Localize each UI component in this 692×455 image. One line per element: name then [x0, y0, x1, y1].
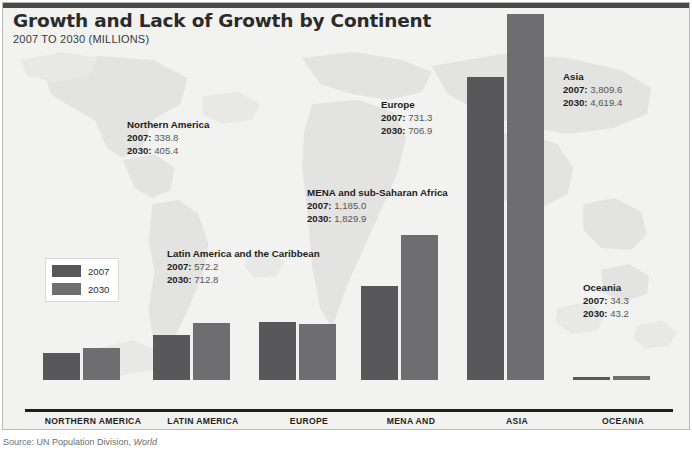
- legend: 2007 2030: [45, 258, 119, 302]
- bar-mena-subsaharan-africa-2007: [361, 286, 398, 380]
- axis-label-line2: SUB-SAHARAN AFRICA: [341, 427, 481, 430]
- bar-northern-america-2030: [83, 348, 120, 380]
- annotation-value: 706.9: [408, 125, 432, 136]
- bar-oceania-2007: [573, 377, 610, 380]
- bar-asia-2030: [507, 14, 544, 380]
- legend-swatch-icon-2007: [52, 265, 81, 277]
- annotation-value: 712.8: [194, 274, 218, 285]
- annotation-row-2007: 2007: 1,185.0: [307, 200, 448, 213]
- annotation-year-label: 2030:: [381, 125, 406, 136]
- annotation-latin-america: Latin America and the Caribbean 2007: 57…: [167, 248, 320, 286]
- annotation-title: Asia: [563, 71, 622, 84]
- annotation-value: 1,185.0: [334, 200, 366, 211]
- legend-swatch-icon-2030: [52, 283, 81, 295]
- bar-latin-america-2007: [153, 335, 190, 380]
- annotation-value: 3,809.6: [590, 84, 622, 95]
- legend-item-2007: 2007: [52, 264, 109, 278]
- annotation-value: 4,619.4: [590, 97, 622, 108]
- annotation-year-label: 2030:: [307, 213, 332, 224]
- bar-latin-america-2030: [193, 323, 230, 380]
- chart-figure: Growth and Lack of Growth by Continent 2…: [0, 0, 692, 455]
- bar-northern-america-2007: [43, 353, 80, 380]
- annotation-row-2030: 2030: 1,829.9: [307, 213, 448, 226]
- annotation-row-2007: 2007: 3,809.6: [563, 84, 622, 97]
- legend-label-2030: 2030: [88, 284, 109, 295]
- source-publication: World: [134, 437, 158, 447]
- bar-oceania-2030: [613, 376, 650, 380]
- axis-label-oceania: OCEANIA: [553, 416, 690, 427]
- annotation-year-label: 2030:: [583, 308, 608, 319]
- annotation-value: 1,829.9: [334, 213, 366, 224]
- annotation-title: Europe: [381, 99, 432, 112]
- annotation-title: Latin America and the Caribbean: [167, 248, 320, 261]
- annotation-row-2007: 2007: 34.3: [583, 295, 629, 308]
- annotation-title: Northern America: [127, 119, 209, 132]
- annotation-value: 731.3: [408, 112, 432, 123]
- annotation-row-2030: 2030: 712.8: [167, 274, 320, 287]
- source-caption: Source: UN Population Division, World: [3, 437, 157, 447]
- annotation-value: 405.4: [154, 145, 178, 156]
- annotation-year-label: 2007:: [167, 261, 192, 272]
- legend-item-2030: 2030: [52, 282, 109, 296]
- legend-label-2007: 2007: [88, 266, 109, 277]
- annotation-value: 338.8: [154, 132, 178, 143]
- annotation-mena-subsaharan-africa: MENA and sub-Saharan Africa 2007: 1,185.…: [307, 187, 448, 225]
- annotation-year-label: 2030:: [127, 145, 152, 156]
- annotation-value: 572.2: [194, 261, 218, 272]
- bar-asia-2007: [467, 77, 504, 380]
- annotation-year-label: 2007:: [127, 132, 152, 143]
- annotation-europe: Europe 2007: 731.3 2030: 706.9: [381, 99, 432, 137]
- annotation-row-2007: 2007: 338.8: [127, 132, 209, 145]
- annotation-year-label: 2030:: [167, 274, 192, 285]
- annotation-year-label: 2007:: [583, 295, 608, 306]
- annotation-title: MENA and sub-Saharan Africa: [307, 187, 448, 200]
- annotation-row-2030: 2030: 405.4: [127, 145, 209, 158]
- annotation-northern-america: Northern America 2007: 338.8 2030: 405.4: [127, 119, 209, 157]
- bar-mena-subsaharan-africa-2030: [401, 235, 438, 380]
- annotation-year-label: 2007:: [307, 200, 332, 211]
- annotation-value: 43.2: [610, 308, 629, 319]
- bar-europe-2007: [259, 322, 296, 380]
- annotation-row-2007: 2007: 731.3: [381, 112, 432, 125]
- source-text: Source: UN Population Division,: [3, 437, 134, 447]
- axis-label-line2: AND THE CARIBBEAN: [133, 427, 273, 430]
- annotation-row-2030: 2030: 706.9: [381, 125, 432, 138]
- annotation-row-2030: 2030: 4,619.4: [563, 97, 622, 110]
- annotation-oceania: Oceania 2007: 34.3 2030: 43.2: [583, 282, 629, 320]
- annotation-year-label: 2007:: [563, 84, 588, 95]
- x-axis-line: [25, 409, 673, 412]
- annotation-year-label: 2030:: [563, 97, 588, 108]
- annotation-row-2007: 2007: 572.2: [167, 261, 320, 274]
- annotation-title: Oceania: [583, 282, 629, 295]
- annotation-row-2030: 2030: 43.2: [583, 308, 629, 321]
- annotation-value: 34.3: [610, 295, 629, 306]
- annotation-year-label: 2007:: [381, 112, 406, 123]
- annotation-asia: Asia 2007: 3,809.6 2030: 4,619.4: [563, 71, 622, 109]
- axis-label-line1: OCEANIA: [553, 416, 690, 427]
- bar-europe-2030: [299, 324, 336, 380]
- chart-frame: Growth and Lack of Growth by Continent 2…: [2, 2, 690, 430]
